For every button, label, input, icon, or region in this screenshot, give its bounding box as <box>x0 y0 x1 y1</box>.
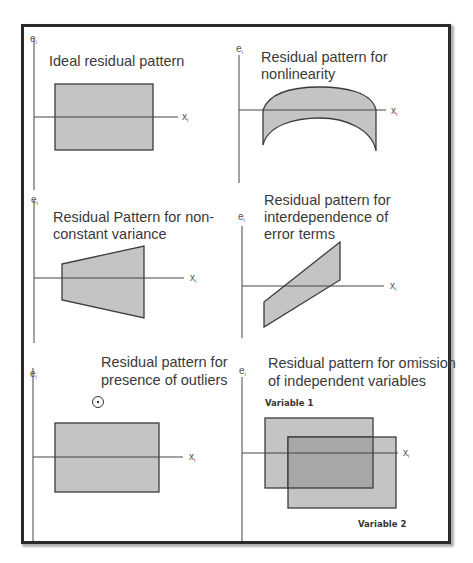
residual-patterns-figure: ei xi Ideal residual pattern ei Residual… <box>0 0 473 563</box>
panel-title-line2: presence of outliers <box>101 372 228 388</box>
panel-title-line1: Residual Pattern for non- <box>53 209 214 225</box>
panel-title-line2: of independent variables <box>268 373 426 389</box>
panel-title-line1: Residual pattern for <box>264 192 391 208</box>
overlap-region <box>288 437 373 488</box>
variable-1-label: Variable 1 <box>265 398 313 408</box>
panel-title-line2: interdependence of <box>264 209 389 225</box>
panel-title-line2: nonlinearity <box>261 66 336 82</box>
panel-title: Ideal residual pattern <box>49 53 184 69</box>
panel-title-line2: constant variance <box>53 226 167 242</box>
panel-title-line1: Residual pattern for omission <box>268 355 456 371</box>
panel-title-line1: Residual pattern for <box>101 354 228 370</box>
panel-title-line1: Residual pattern for <box>261 49 388 65</box>
variable-2-label: Variable 2 <box>358 519 406 529</box>
panel-title-line3: error terms <box>264 226 335 242</box>
